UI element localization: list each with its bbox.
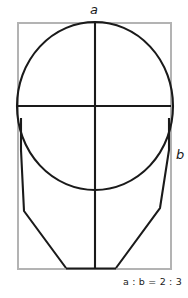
ratio-annotation: a : b = 2 : 3 (0, 277, 182, 287)
height-label-b: b (176, 148, 184, 161)
width-label-a: a (0, 3, 188, 16)
diagram-canvas: a b a : b = 2 : 3 (0, 0, 188, 298)
jaw-right-outline (116, 118, 169, 268)
jaw-left-outline (21, 118, 66, 268)
face-proportion-svg (0, 0, 188, 298)
